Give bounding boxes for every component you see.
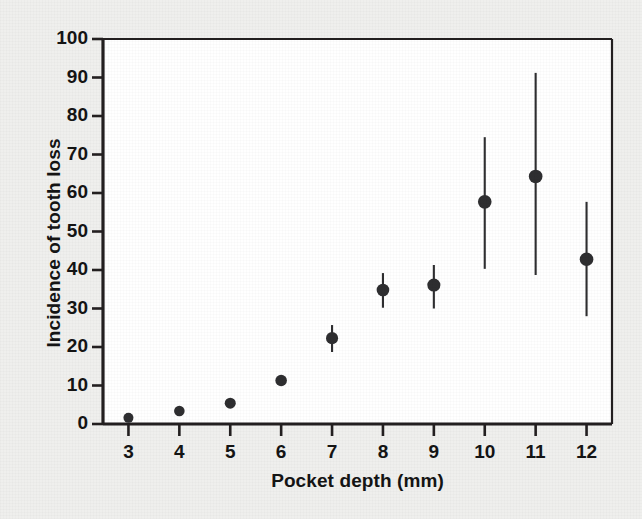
- y-tick-label: 50: [36, 220, 88, 242]
- x-tick-label: 3: [108, 441, 148, 463]
- data-point-marker: [427, 278, 440, 291]
- x-tick-label: 7: [312, 441, 352, 463]
- y-tick-label: 90: [36, 66, 88, 88]
- data-point-marker: [529, 170, 543, 184]
- x-tick-label: 4: [159, 441, 199, 463]
- x-axis-title: Pocket depth (mm): [103, 470, 612, 492]
- y-tick-label: 20: [36, 335, 88, 357]
- y-tick-label: 60: [36, 181, 88, 203]
- data-point-marker: [174, 406, 185, 417]
- data-point-marker: [478, 195, 492, 209]
- figure-container: Incidence of tooth loss Pocket depth (mm…: [0, 0, 642, 519]
- x-tick-label: 10: [465, 441, 505, 463]
- data-point-marker: [275, 375, 287, 387]
- data-point-marker: [377, 284, 390, 297]
- y-tick-label: 80: [36, 104, 88, 126]
- y-axis-ticks: [92, 39, 103, 424]
- x-tick-label: 5: [210, 441, 250, 463]
- data-point-marker: [123, 413, 133, 423]
- data-point-marker: [326, 332, 338, 344]
- y-tick-label: 10: [36, 374, 88, 396]
- y-tick-label: 70: [36, 143, 88, 165]
- x-tick-label: 8: [363, 441, 403, 463]
- x-tick-label: 6: [261, 441, 301, 463]
- y-tick-label: 40: [36, 258, 88, 280]
- x-axis-ticks: [128, 424, 586, 436]
- data-point-marker: [225, 398, 236, 409]
- y-tick-label: 100: [36, 27, 88, 49]
- x-tick-label: 11: [516, 441, 556, 463]
- x-tick-label: 9: [414, 441, 454, 463]
- data-point-marker: [580, 252, 594, 266]
- x-tick-label: 12: [567, 441, 607, 463]
- y-tick-label: 0: [36, 412, 88, 434]
- y-tick-label: 30: [36, 297, 88, 319]
